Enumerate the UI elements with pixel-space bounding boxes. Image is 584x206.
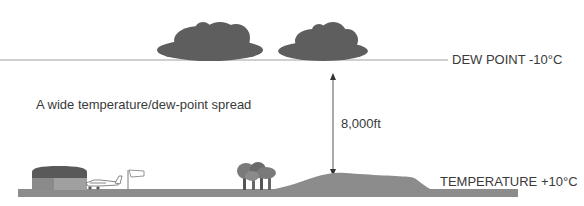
hill-icon: [270, 173, 432, 190]
spread-caption: A wide temperature/dew-point spread: [36, 97, 251, 112]
temperature-label: TEMPERATURE +10°C: [440, 174, 578, 189]
cloud-icon: [157, 22, 263, 61]
windsock-icon: [128, 170, 144, 189]
dew-point-label: DEW POINT -10°C: [452, 52, 562, 67]
trees-icon: [237, 162, 276, 190]
ground-bar: [18, 189, 518, 197]
cloud-icon: [278, 22, 368, 61]
height-label: 8,000ft: [341, 116, 381, 131]
airplane-icon: [86, 176, 122, 189]
hangar-icon: [32, 166, 87, 190]
height-arrow: [330, 73, 336, 176]
